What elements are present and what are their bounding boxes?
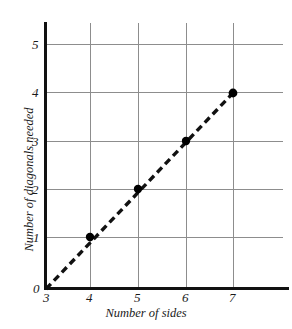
data-point-6-3 — [182, 137, 190, 145]
vertical-gridlines — [91, 23, 234, 289]
x-axis-title: Number of sides — [0, 306, 292, 321]
x-tick-label-6: 6 — [182, 291, 189, 304]
y-tick-label-5: 5 — [32, 38, 39, 51]
chart-plot-area — [0, 0, 292, 329]
x-tick-label-5: 5 — [134, 291, 141, 304]
chart-figure: 5 4 3 2 1 0 3 4 5 6 7 Number of sides Nu… — [0, 0, 292, 329]
x-tick-label-3: 3 — [43, 291, 50, 304]
x-tick-label-4: 4 — [86, 291, 93, 304]
data-point-4-1 — [86, 233, 94, 241]
data-point-7-4 — [229, 89, 238, 98]
x-tick-label-7: 7 — [229, 291, 236, 304]
y-axis-title: Number of diagonals needed — [22, 90, 37, 270]
horizontal-gridlines — [45, 45, 283, 238]
data-point-5-2 — [134, 185, 142, 193]
origin-label-0: 0 — [33, 282, 40, 295]
